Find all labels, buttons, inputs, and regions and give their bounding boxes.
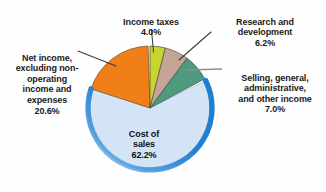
- leader-lines-gray: [186, 69, 222, 70]
- slice-label-cost-of-sales-text: Cost of sales: [129, 129, 159, 150]
- slice-label-income-taxes: Income taxes4.0%: [104, 6, 198, 48]
- leader-line-selling-general-admin: [186, 69, 222, 70]
- slice-value-selling-general-admin: 7.0%: [225, 104, 325, 115]
- pie-chart-figure: Income taxes4.0% Research and developmen…: [0, 0, 326, 192]
- slice-value-net-income: 20.6%: [4, 106, 90, 117]
- slice-label-selling-general-admin: Selling, general, administrative, and ot…: [225, 62, 325, 126]
- slice-value-research-development: 6.2%: [214, 38, 316, 49]
- slice-value-cost-of-sales: 62.2%: [104, 150, 184, 161]
- slice-label-income-taxes-text: Income taxes: [123, 17, 179, 27]
- slice-label-cost-of-sales: Cost of sales62.2%: [104, 118, 184, 171]
- slice-value-income-taxes: 4.0%: [104, 27, 198, 38]
- slice-label-research-development-text: Research and development: [236, 17, 294, 38]
- slice-label-selling-general-admin-text: Selling, general, administrative, and ot…: [238, 73, 311, 104]
- slice-label-net-income: Net income, excluding non- operating inc…: [4, 42, 90, 127]
- slice-label-net-income-text: Net income, excluding non- operating inc…: [16, 53, 79, 105]
- slice-label-research-development: Research and development6.2%: [214, 6, 316, 59]
